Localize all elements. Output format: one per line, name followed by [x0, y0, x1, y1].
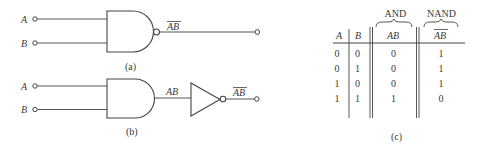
- caption-c: (c): [391, 131, 402, 143]
- header-ab: AB: [386, 30, 399, 41]
- group-label-and: AND: [385, 8, 407, 19]
- inversion-bubble-icon: [220, 96, 226, 102]
- input-b-terminal-icon: [33, 41, 37, 45]
- header-a: A: [335, 30, 343, 41]
- header-b: B: [355, 30, 361, 41]
- caption-a: (a): [125, 61, 136, 73]
- cell: 0: [439, 93, 444, 104]
- cell: 0: [391, 63, 396, 74]
- output-label: AB: [166, 21, 179, 32]
- input-a-label: A: [20, 14, 28, 25]
- table-row: 0 1 0 1: [335, 63, 444, 74]
- cell: 1: [439, 63, 444, 74]
- table-row: 0 0 0 1: [335, 48, 444, 59]
- cell: 0: [391, 48, 396, 59]
- cell: 1: [355, 63, 360, 74]
- brace-nand-icon: [424, 19, 458, 27]
- and-gate-icon: [107, 79, 155, 118]
- figure-a: A B AB (a): [20, 11, 260, 73]
- input-a-label: A: [20, 81, 28, 92]
- table-row: 1 1 1 0: [335, 93, 444, 104]
- input-b-label: B: [21, 38, 27, 49]
- cell: 0: [335, 48, 340, 59]
- cell: 0: [335, 63, 340, 74]
- cell: 0: [391, 78, 396, 89]
- input-a-terminal-icon: [33, 17, 37, 21]
- inverter-gate-icon: [191, 83, 220, 116]
- header-not-ab: AB: [433, 30, 446, 41]
- cell: 1: [439, 48, 444, 59]
- cell: 1: [439, 78, 444, 89]
- logic-diagram: A B AB (a) A B AB AB (b) AND: [0, 0, 481, 150]
- group-label-nand: NAND: [427, 8, 456, 19]
- input-b-label: B: [21, 104, 27, 115]
- cell: 0: [355, 78, 360, 89]
- cell: 1: [355, 93, 360, 104]
- figure-b: A B AB AB (b): [20, 79, 259, 138]
- figure-c-truth-table: AND NAND A B AB AB 0 0 0 1 0 1 0 1: [333, 8, 465, 143]
- brace-and-icon: [376, 19, 412, 27]
- intermediate-label: AB: [165, 86, 178, 97]
- caption-b: (b): [126, 126, 138, 138]
- inversion-bubble-icon: [154, 29, 160, 35]
- nand-gate-icon: [107, 11, 153, 52]
- output-terminal-icon: [255, 30, 260, 35]
- cell: 1: [335, 78, 340, 89]
- cell: 1: [391, 93, 396, 104]
- cell: 0: [355, 48, 360, 59]
- output-label: AB: [232, 87, 245, 98]
- cell: 1: [335, 93, 340, 104]
- input-b-terminal-icon: [33, 107, 37, 111]
- output-terminal-icon: [254, 97, 259, 102]
- table-row: 1 0 0 1: [335, 78, 444, 89]
- input-a-terminal-icon: [33, 84, 37, 88]
